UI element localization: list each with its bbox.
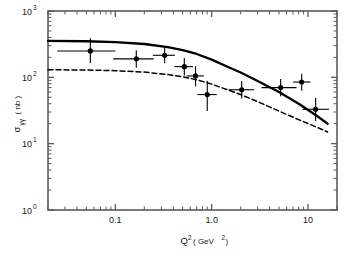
marker: [88, 48, 93, 53]
svg-text:( nb ): ( nb ): [13, 95, 22, 114]
marker: [134, 56, 139, 61]
svg-text:10: 10: [22, 206, 32, 216]
marker: [239, 87, 244, 92]
svg-text:0: 0: [33, 203, 37, 210]
marker: [205, 92, 210, 97]
marker: [313, 107, 318, 112]
figure-container: 0.11.010 100101102103 Q2( GeV2 ) σγγ( nb…: [0, 0, 359, 256]
marker: [182, 64, 187, 69]
svg-text:( GeV: ( GeV: [193, 237, 215, 246]
svg-text:1: 1: [33, 136, 37, 143]
marker: [299, 79, 304, 84]
x-tick-label-1: 1.0: [205, 215, 218, 225]
x-tick-label-0: 0.1: [109, 215, 122, 225]
svg-text:3: 3: [33, 4, 37, 11]
log-log-plot: 0.11.010 100101102103 Q2( GeV2 ) σγγ( nb…: [0, 0, 359, 256]
svg-text:Q: Q: [181, 235, 188, 246]
svg-text:10: 10: [22, 139, 32, 149]
marker: [162, 53, 167, 58]
svg-text:γγ: γγ: [18, 118, 26, 125]
svg-text:10: 10: [22, 7, 32, 17]
x-tick-label-2: 10: [303, 215, 313, 225]
svg-text:10: 10: [22, 73, 32, 83]
svg-text:2: 2: [188, 234, 192, 241]
svg-text:2: 2: [33, 70, 37, 77]
svg-text:σ: σ: [11, 127, 22, 133]
marker: [278, 85, 283, 90]
marker: [193, 73, 198, 78]
svg-text:): ): [226, 237, 229, 246]
